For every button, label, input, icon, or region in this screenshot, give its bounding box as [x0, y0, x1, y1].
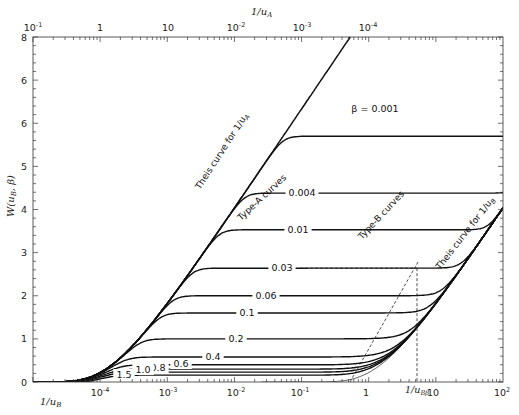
x2-tick-label: 10-2 — [227, 21, 246, 33]
plot-frame — [33, 37, 503, 382]
y-tick-label: 8 — [21, 32, 27, 43]
plot-border — [33, 37, 503, 382]
y-tick-label: 6 — [21, 118, 27, 129]
tick-labels: 10-410-310-210-111010210-111010-210-310-… — [21, 21, 510, 398]
x2-tick-label: 10-4 — [359, 21, 378, 33]
x-tick-label: 102 — [494, 386, 510, 398]
curve-label: 1.5 — [116, 369, 131, 380]
ubb-label: 1/uBβ — [405, 384, 429, 397]
curve-label: 0.2 — [228, 333, 243, 344]
y-tick-label: 6 — [21, 75, 27, 86]
dashed-asymptote — [350, 262, 418, 382]
y-tick-label: 0 — [21, 377, 27, 388]
x-tick-label: 10-1 — [291, 386, 310, 398]
type-a-curves-label: Type-A curves — [235, 172, 289, 223]
theis-curve-a-label: Theis curve for 1/uA — [193, 111, 252, 193]
type-curve-beta-0.001 — [33, 136, 503, 382]
x2-tick-label: 1 — [97, 22, 103, 33]
x2-tick-label: 10-3 — [293, 21, 312, 33]
x-tick-label: 10-3 — [159, 386, 178, 398]
curve-label: 0.1 — [239, 307, 254, 318]
type-b-curves-label: Type-B curves — [355, 189, 406, 243]
axis-ticks — [33, 37, 503, 382]
type-curve-beta-0.004 — [33, 193, 503, 382]
x2-tick-label: 10 — [162, 22, 174, 33]
curve-label: 0.004 — [288, 187, 315, 198]
x-axis-title-bottom: 1/uB — [40, 396, 61, 409]
y-tick-label: 5 — [21, 161, 27, 172]
curve-label: 0.06 — [255, 290, 276, 301]
x-tick-label: 10-2 — [227, 386, 246, 398]
y-tick-label: 2 — [21, 290, 27, 301]
curve-label: 1.0 — [135, 364, 150, 375]
curve-label: 0.6 — [173, 358, 188, 369]
y-tick-label: 3 — [21, 247, 27, 258]
y-axis-title: W(uB, β) — [5, 175, 18, 217]
x-tick-label: 10-4 — [91, 386, 110, 398]
x-axis-title-top: 1/uA — [251, 6, 272, 19]
curve-label: β = 0.001 — [351, 103, 398, 114]
y-tick-label: 1 — [21, 333, 27, 344]
curve-label: 0.03 — [271, 262, 292, 273]
curve-label: 0.4 — [205, 351, 220, 362]
curve-label: 0.01 — [287, 224, 308, 235]
y-tick-label: 4 — [21, 204, 27, 215]
type-curves-chart: β = 0.0010.0040.010.030.060.10.20.40.60.… — [0, 0, 519, 415]
x-tick-label: 1 — [363, 387, 369, 398]
